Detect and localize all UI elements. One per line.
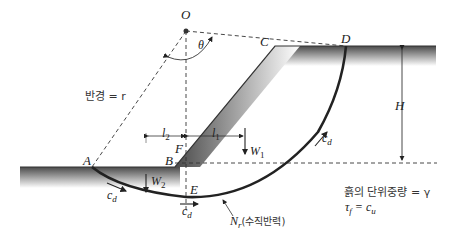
label-cd-right: cd — [322, 131, 332, 147]
label-B: B — [165, 153, 173, 169]
label-unit-weight: 흙의 단위중량 = γ — [344, 183, 430, 199]
label-Nr: Nr(수직반력) — [230, 213, 285, 230]
label-cd-left: cd — [107, 188, 117, 204]
label-A: A — [83, 153, 91, 169]
label-F: F — [175, 141, 183, 157]
label-E: E — [190, 182, 198, 198]
label-O: O — [181, 7, 190, 23]
slope-diagram — [0, 0, 457, 236]
label-shear-strength: τf = cu — [345, 200, 376, 216]
label-radius: 반경 = r — [85, 87, 126, 103]
theta-arc — [168, 37, 212, 60]
label-W1: W1 — [250, 144, 265, 160]
label-H: H — [395, 98, 404, 114]
label-theta: θ — [198, 38, 204, 53]
label-C: C — [260, 34, 269, 50]
label-l1: l1 — [212, 126, 220, 142]
label-W2: W2 — [151, 174, 166, 190]
label-D: D — [341, 31, 350, 47]
label-cd-bottom: cd — [182, 204, 192, 220]
label-l2: l2 — [162, 126, 170, 142]
center-point-O — [184, 29, 189, 34]
